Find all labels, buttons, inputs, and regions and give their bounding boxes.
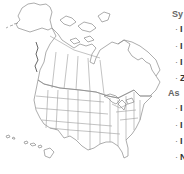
- legend-item-label: I: [180, 57, 183, 67]
- legend-item-label: Z: [180, 73, 184, 83]
- bullet-icon: ·: [175, 103, 178, 113]
- bc-coast-islands: [35, 42, 38, 72]
- bullet-icon: ·: [175, 41, 178, 51]
- legend-heading-as: As: [168, 89, 180, 98]
- legend-item-label: I: [180, 120, 183, 130]
- bullet-icon: ·: [175, 152, 178, 162]
- canada-arctic-islands: [60, 12, 110, 44]
- bullet-icon: ·: [175, 136, 178, 146]
- bullet-icon: ·: [175, 120, 178, 130]
- alaska-outline: [16, 3, 52, 32]
- legend-item-label: N: [180, 152, 184, 162]
- bullet-icon: ·: [175, 73, 178, 83]
- legend-item-label: I: [180, 41, 183, 51]
- canada-outline: [38, 28, 160, 98]
- legend-item: ·I: [175, 42, 183, 51]
- legend-item: ·I: [175, 104, 183, 113]
- bullet-icon: ·: [175, 57, 178, 67]
- legend-item: ·I: [175, 58, 183, 67]
- north-america-map: [0, 0, 166, 174]
- legend-item: ·Z: [175, 74, 184, 83]
- labrador-outline: [118, 40, 160, 76]
- legend-item-label: I: [180, 136, 183, 146]
- legend-heading-synonyms: Sy: [172, 10, 183, 19]
- legend-item: ·I: [175, 137, 183, 146]
- legend-item: ·N: [175, 153, 184, 162]
- legend-item-label: I: [180, 24, 183, 34]
- legend-item-label: I: [180, 103, 183, 113]
- legend-item: ·I: [175, 121, 183, 130]
- us-state-borders: [36, 90, 140, 150]
- legend-item: ·I: [175, 25, 183, 34]
- province-borders: [50, 36, 104, 94]
- bullet-icon: ·: [175, 24, 178, 34]
- aleutian-islands: [6, 23, 18, 28]
- hawaii-islands: [6, 135, 54, 158]
- legend: Sy ·I ·I ·I ·Z As ·I ·I ·I ·N: [172, 0, 184, 174]
